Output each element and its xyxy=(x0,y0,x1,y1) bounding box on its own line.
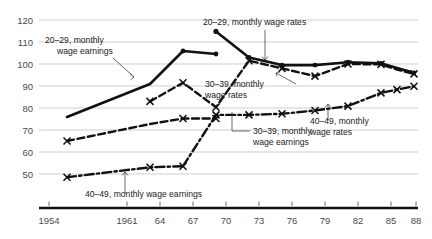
xtick-label-70: 70 xyxy=(221,215,232,226)
xtick-label-79: 79 xyxy=(320,215,331,226)
ytick-label-120: 120 xyxy=(17,15,33,26)
xtick-label-85: 85 xyxy=(386,215,397,226)
ytick-label-70: 70 xyxy=(22,125,33,136)
annot-40-49-earnings-line1: 40–49, monthly wage earnings xyxy=(85,189,202,199)
ytick-label-100: 100 xyxy=(17,59,33,70)
data-point xyxy=(213,104,220,111)
annot-20-29-rates-line1: 20–29, monthly wage rates xyxy=(203,17,306,27)
xtick-label-73: 73 xyxy=(254,215,265,226)
ytick-label-60: 60 xyxy=(22,147,33,158)
data-point xyxy=(213,29,218,34)
y-axis-tick-labels: 120 110 100 90 80 70 60 50 xyxy=(17,15,33,180)
xtick-label-67: 67 xyxy=(188,215,199,226)
annot-20-29-earnings-line1: 20–29, monthly xyxy=(45,35,104,45)
x-axis xyxy=(39,202,418,209)
ytick-label-80: 80 xyxy=(22,103,33,114)
xtick-label-76: 76 xyxy=(287,215,298,226)
ytick-label-90: 90 xyxy=(22,81,33,92)
annot-40-49-rates-line2: wage rates xyxy=(309,127,352,137)
ytick-label-50: 50 xyxy=(22,169,33,180)
series-line-20-29-earnings xyxy=(67,51,216,117)
annot-30-39-rates-line2: wage rates xyxy=(204,90,247,100)
ytick-label-110: 110 xyxy=(18,37,33,48)
data-point xyxy=(181,49,186,54)
annot-40-49-rates-line1: 40–49, monthly xyxy=(310,116,369,126)
xtick-label-64: 64 xyxy=(155,215,166,226)
data-point xyxy=(313,63,318,68)
annot-30-39-earnings-line2: wage earnings xyxy=(252,137,309,147)
leader-30-39-rates xyxy=(276,73,296,84)
annot-20-29-earnings-line2: wage earnings xyxy=(56,46,113,56)
xtick-label-88: 88 xyxy=(411,215,422,226)
annot-30-39-earnings-line1: 30–39, monthly xyxy=(253,126,312,136)
xtick-label-1954: 1954 xyxy=(38,215,59,226)
x-axis-tick-labels: 1954 1961 64 67 70 73 76 79 82 85 88 xyxy=(38,215,421,226)
annot-30-39-rates-line1: 30–39, monthly xyxy=(205,79,264,89)
data-point xyxy=(147,98,154,105)
data-point xyxy=(180,79,187,86)
xtick-label-82: 82 xyxy=(353,215,364,226)
data-point xyxy=(214,52,219,57)
chart-canvas: 120 110 100 90 80 70 60 50 xyxy=(0,0,432,239)
wage-index-line-chart: 120 110 100 90 80 70 60 50 xyxy=(0,0,432,239)
leader-arrow-20-29-earnings xyxy=(130,74,134,81)
xtick-label-1961: 1961 xyxy=(116,215,137,226)
